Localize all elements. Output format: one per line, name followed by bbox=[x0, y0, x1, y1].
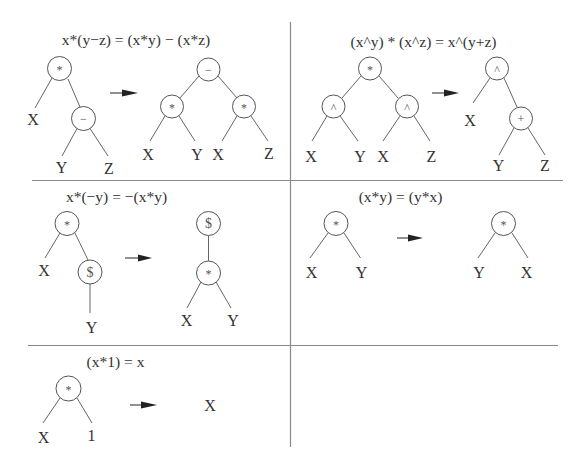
operator-label: * bbox=[241, 101, 247, 115]
equation-title: x*(−y) = −(x*y) bbox=[66, 188, 167, 206]
operator-label: * bbox=[169, 101, 175, 115]
equation-title: (x^y) * (x^z) = x^(y+z) bbox=[350, 33, 496, 51]
tree-edge bbox=[478, 233, 495, 258]
operator-label: $ bbox=[205, 216, 212, 231]
operator-label: $ bbox=[87, 265, 94, 280]
leaf-label: X bbox=[464, 112, 476, 129]
tree-before: * ^ ^ X Y X Z bbox=[305, 57, 436, 165]
leaf-label: X bbox=[306, 264, 318, 281]
panel-identity: (x*1) = x * X 1 X bbox=[38, 353, 217, 446]
tree-edge bbox=[310, 233, 328, 258]
tree-edge bbox=[179, 116, 195, 141]
operator-label: * bbox=[66, 383, 72, 397]
leaf-label: Y bbox=[86, 319, 98, 336]
leaf-label: X bbox=[38, 262, 50, 279]
tree-after: X bbox=[204, 397, 216, 414]
leaf-label: X bbox=[142, 146, 154, 163]
tree-edge bbox=[504, 78, 517, 107]
tree-edge bbox=[312, 116, 327, 141]
leaf-label: Z bbox=[427, 148, 437, 165]
tree-after: * Y X bbox=[473, 212, 533, 282]
panel-distributive: x*(y−z) = (x*y) − (x*z) * X − Y Z bbox=[27, 31, 274, 177]
operator-label: ^ bbox=[331, 101, 337, 115]
operator-label: * bbox=[64, 218, 70, 232]
tree-edge bbox=[45, 233, 60, 258]
leaf-label: Y bbox=[56, 159, 68, 176]
tree-before: * X $ Y bbox=[38, 212, 102, 337]
tree-edge bbox=[414, 116, 430, 141]
leaf-label: Z bbox=[540, 157, 550, 174]
tree-edge bbox=[68, 79, 80, 107]
tree-edge bbox=[75, 233, 88, 260]
leaf-label: Y bbox=[473, 264, 485, 281]
diagram-canvas: x*(y−z) = (x*y) − (x*z) * X − Y Z bbox=[0, 0, 583, 469]
equation-title: x*(y−z) = (x*y) − (x*z) bbox=[62, 31, 210, 49]
tree-edge bbox=[499, 128, 514, 155]
tree-edge bbox=[528, 128, 545, 155]
leaf-label: X bbox=[38, 429, 50, 446]
leaf-label: Y bbox=[191, 146, 203, 163]
rewrite-arrow-icon bbox=[110, 90, 138, 97]
operator-label: * bbox=[57, 63, 63, 77]
operator-label: ^ bbox=[404, 101, 410, 115]
tree-edge bbox=[62, 129, 77, 157]
leaf-label: X bbox=[521, 264, 533, 281]
rewrite-arrow-icon bbox=[432, 90, 459, 97]
tree-edge bbox=[473, 78, 490, 103]
tree-edge bbox=[180, 76, 199, 98]
tree-edge bbox=[218, 76, 237, 98]
leaf-label: Y bbox=[227, 312, 239, 329]
leaf-label: X bbox=[27, 111, 39, 128]
tree-edge bbox=[379, 76, 398, 98]
tree-before: * X 1 bbox=[38, 376, 96, 446]
operator-label: * bbox=[206, 267, 212, 281]
tree-edge bbox=[35, 78, 52, 108]
tree-before: * X Y bbox=[306, 212, 368, 282]
leaf-label: 1 bbox=[88, 427, 96, 444]
equation-title: (x*1) = x bbox=[87, 353, 145, 371]
leaf-label: Y bbox=[354, 148, 366, 165]
tree-edge bbox=[251, 116, 268, 141]
leaf-label: Z bbox=[104, 160, 114, 177]
tree-after: − * * X Y X Z bbox=[142, 58, 274, 163]
equation-title: (x*y) = (y*x) bbox=[359, 188, 443, 206]
operator-label: ^ bbox=[494, 63, 500, 77]
operator-label: − bbox=[205, 63, 212, 77]
leaf-label: Y bbox=[493, 157, 505, 174]
tree-edge bbox=[77, 398, 92, 423]
leaf-label: X bbox=[305, 148, 317, 165]
tree-after: ^ X + Y Z bbox=[464, 57, 550, 174]
leaf-label: X bbox=[377, 148, 389, 165]
rewrite-arrow-icon bbox=[130, 402, 157, 409]
operator-label: + bbox=[518, 112, 525, 126]
operator-label: * bbox=[333, 218, 339, 232]
tree-edge bbox=[222, 116, 237, 141]
tree-edge bbox=[342, 76, 361, 98]
rewrite-arrow-icon bbox=[125, 255, 152, 262]
tree-edge bbox=[90, 129, 108, 157]
tree-edge bbox=[43, 398, 60, 423]
operator-label: * bbox=[501, 218, 507, 232]
tree-before: * X − Y Z bbox=[27, 57, 114, 178]
tree-edge bbox=[340, 116, 358, 141]
tree-edge bbox=[187, 282, 201, 308]
rewrite-rules-figure: x*(y−z) = (x*y) − (x*z) * X − Y Z bbox=[0, 0, 583, 469]
leaf-label: X bbox=[204, 397, 216, 414]
tree-edge bbox=[344, 233, 361, 258]
tree-after: $ * X Y bbox=[181, 212, 240, 330]
panel-power-product: (x^y) * (x^z) = x^(y+z) * ^ ^ X Y X Z bbox=[305, 33, 550, 174]
leaf-label: Z bbox=[264, 145, 274, 162]
tree-edge bbox=[512, 233, 528, 258]
leaf-label: X bbox=[212, 146, 224, 163]
operator-label: * bbox=[367, 63, 373, 77]
tree-edge bbox=[383, 116, 400, 141]
tree-edge bbox=[150, 116, 165, 141]
operator-label: − bbox=[80, 112, 87, 126]
panel-negation: x*(−y) = −(x*y) * X $ Y $ * X Y bbox=[38, 188, 239, 336]
tree-edge bbox=[216, 282, 231, 308]
panel-commutative: (x*y) = (y*x) * X Y * Y X bbox=[306, 188, 533, 281]
leaf-label: X bbox=[181, 312, 193, 329]
rewrite-arrow-icon bbox=[397, 235, 423, 242]
leaf-label: Y bbox=[356, 264, 368, 281]
